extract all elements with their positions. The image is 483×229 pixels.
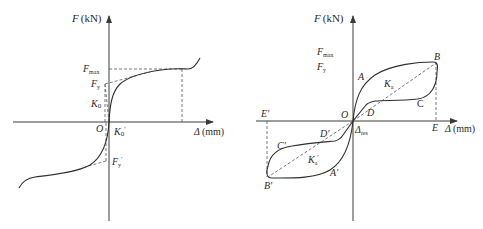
left-fmax-label: Fmax [82,63,99,75]
left-origin-label: O [96,123,103,134]
left-k0-line [105,84,109,122]
point-a-prime-label: A′ [329,167,339,178]
point-b-prime-label: B′ [264,180,273,191]
left-skeleton-curve [109,58,200,122]
ka-prime-label: Ka′ [307,153,319,166]
right-y-axis-label: F(kN) [313,12,344,25]
point-d-prime-label: D′ [319,128,330,139]
right-diagram: F(kN) Δ(mm) O Fmax Fy A B C D E Ka A′ B′… [256,12,475,221]
point-c-label: C [417,98,424,109]
left-x-axis-label: Δ(mm) [193,126,224,138]
point-d-label: D [366,107,375,118]
diagram-canvas: F(kN) Δ(mm) O Fmax Fy K0 K0′ Fy′ F(kN) Δ… [0,0,483,229]
point-c-prime-label: C′ [277,140,287,151]
ka-label: Ka [383,78,394,90]
right-fy-label: Fy [316,61,326,73]
point-e-prime-label: E′ [260,108,270,119]
delta-res-label: Δres [354,124,369,136]
point-e-label: E [431,122,438,133]
left-k0-label: K0 [90,98,102,110]
left-fy-prime-label: Fy′ [111,155,123,168]
left-diagram: F(kN) Δ(mm) O Fmax Fy K0 K0′ Fy′ [13,12,224,221]
point-a-label: A [357,71,365,82]
right-ka-secant [353,63,436,121]
left-fy-label: Fy [90,78,100,90]
point-b-label: B [434,51,440,62]
right-fmax-label: Fmax [316,46,333,58]
right-x-axis-label: Δ(mm) [444,123,475,135]
left-k0-prime-label: K0′ [113,125,126,138]
left-y-axis-label: F(kN) [71,12,102,25]
right-origin-label: O [341,109,348,120]
